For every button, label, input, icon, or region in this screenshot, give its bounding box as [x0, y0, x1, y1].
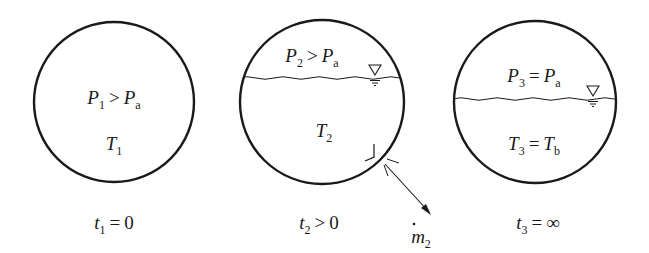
pressure-label-3: P3=Pa [506, 65, 561, 90]
outlet-fitting [365, 144, 374, 161]
mass-flow-dot [413, 223, 416, 226]
stage-3-tank: P3=Pa T3=Tb t3=∞ [452, 21, 632, 237]
time-label-3: t3=∞ [516, 212, 560, 237]
liquid-surface-3 [452, 98, 632, 101]
stage-2-tank: P2>Pa T2 m2 t2>0 [238, 20, 431, 251]
liquid-level-icon [587, 86, 599, 107]
tank-venting-diagram: P1>Pa T1 t1=0 P2>Pa T2 [0, 0, 649, 253]
liquid-level-icon [369, 65, 381, 86]
time-label-1: t1=0 [94, 212, 134, 237]
pressure-label-2: P2>Pa [284, 45, 339, 70]
temperature-label-3: T3=Tb [508, 133, 560, 158]
mass-flow-label: m2 [411, 226, 431, 251]
liquid-surface-2 [238, 77, 418, 80]
outflow-arrow [384, 159, 431, 215]
pressure-label-1: P1>Pa [86, 87, 141, 112]
temperature-label-2: T2 [316, 120, 333, 145]
time-label-2: t2>0 [299, 212, 339, 237]
stage-1-tank: P1>Pa T1 t1=0 [34, 22, 194, 237]
temperature-label-1: T1 [106, 133, 123, 158]
